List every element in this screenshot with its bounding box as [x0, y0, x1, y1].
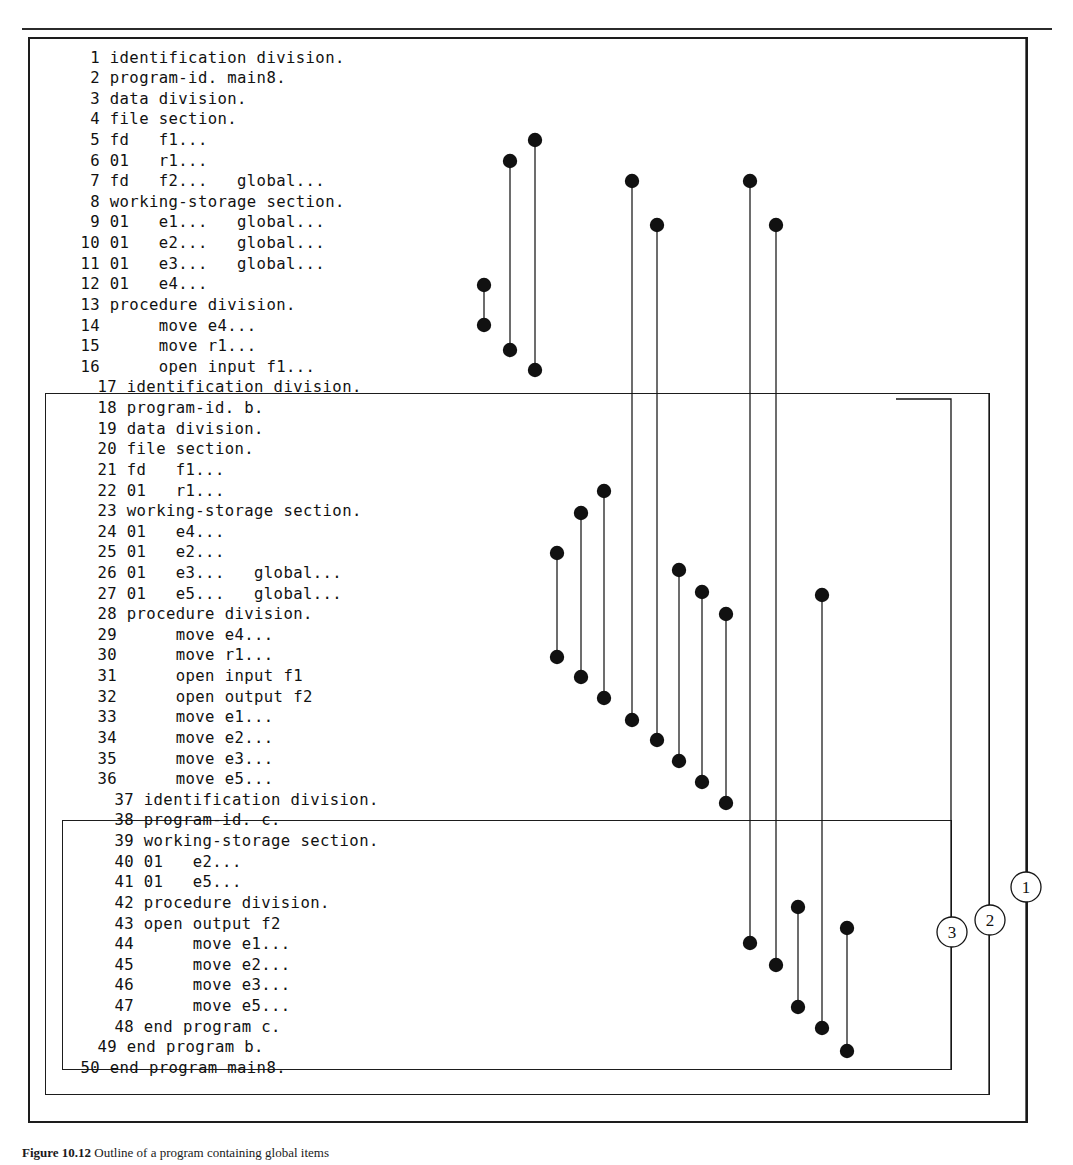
connector-endpoint-dot [477, 278, 491, 292]
connector-endpoint-dot [503, 343, 517, 357]
connector-endpoint-dot [791, 900, 805, 914]
connector-endpoint-dot [477, 318, 491, 332]
scope-marker-1: 1 [1011, 872, 1041, 902]
connector-endpoint-dot [597, 691, 611, 705]
scope-route-3 [896, 399, 951, 1069]
connector-endpoint-dot [650, 218, 664, 232]
scope-marker-2: 2 [975, 905, 1005, 935]
connector-endpoint-dot [528, 133, 542, 147]
connector-endpoint-dot [769, 958, 783, 972]
figure-caption-number: Figure 10.12 [22, 1145, 91, 1160]
connector-endpoint-dot [815, 1021, 829, 1035]
connector-endpoint-dot [719, 607, 733, 621]
connector-endpoint-dot [815, 588, 829, 602]
scope-marker-label: 3 [948, 923, 957, 942]
connector-endpoint-dot [743, 174, 757, 188]
connector-endpoint-dot [550, 650, 564, 664]
scope-marker-3: 3 [937, 917, 967, 947]
connector-endpoint-dot [672, 563, 686, 577]
global-item-connectors: 123 [0, 0, 1073, 1165]
connector-endpoint-dot [574, 670, 588, 684]
connector-endpoint-dot [695, 775, 709, 789]
figure-page: 1 identification division.2 program-id. … [0, 0, 1073, 1165]
connector-endpoint-dot [840, 921, 854, 935]
connector-endpoint-dot [769, 218, 783, 232]
connector-endpoint-dot [672, 754, 686, 768]
connector-endpoint-dot [840, 1044, 854, 1058]
connector-endpoint-dot [625, 174, 639, 188]
connector-endpoint-dot [743, 936, 757, 950]
connector-endpoint-dot [719, 796, 733, 810]
figure-caption-text: Outline of a program containing global i… [91, 1145, 329, 1160]
connector-endpoint-dot [695, 585, 709, 599]
connector-endpoint-dot [528, 363, 542, 377]
figure-caption: Figure 10.12 Outline of a program contai… [22, 1145, 329, 1161]
connector-endpoint-dot [597, 484, 611, 498]
scope-marker-label: 1 [1022, 878, 1031, 897]
connector-endpoint-dot [503, 154, 517, 168]
connector-endpoint-dot [625, 713, 639, 727]
connector-endpoint-dot [574, 506, 588, 520]
scope-marker-label: 2 [986, 911, 995, 930]
connector-endpoint-dot [550, 546, 564, 560]
connector-endpoint-dot [791, 1000, 805, 1014]
connector-endpoint-dot [650, 733, 664, 747]
